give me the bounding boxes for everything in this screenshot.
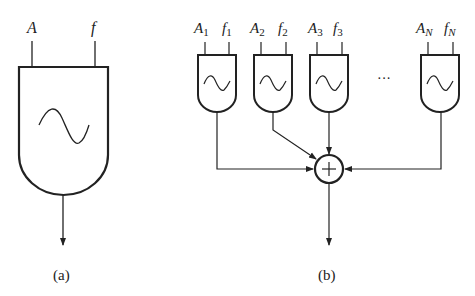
oscillator-2: A2 f2 bbox=[249, 20, 292, 112]
svg-text:f2: f2 bbox=[278, 20, 288, 38]
sine-wave-icon bbox=[260, 76, 286, 91]
svg-text:A1: A1 bbox=[193, 20, 209, 38]
panel-a: A f (a) bbox=[19, 19, 108, 284]
sine-wave-icon bbox=[427, 76, 453, 91]
additive-synthesis-diagram: A f (a) A1 f1 A2 f2 A3 f3 bbox=[0, 0, 475, 296]
svg-text:fN: fN bbox=[444, 20, 456, 38]
svg-text:A2: A2 bbox=[249, 20, 265, 38]
caption-b: (b) bbox=[318, 267, 336, 284]
panel-b: A1 f1 A2 f2 A3 f3 ··· AN bbox=[193, 20, 459, 284]
label-frequency-f: f bbox=[91, 19, 98, 37]
label-amplitude-a: A bbox=[26, 19, 37, 36]
svg-text:A3: A3 bbox=[307, 20, 323, 38]
svg-text:f1: f1 bbox=[222, 20, 232, 38]
caption-a: (a) bbox=[53, 267, 70, 284]
sine-wave-icon bbox=[204, 76, 230, 91]
adder-node bbox=[315, 155, 343, 183]
ellipsis: ··· bbox=[377, 71, 391, 86]
sine-wave-icon bbox=[316, 76, 342, 91]
svg-text:AN: AN bbox=[415, 20, 433, 38]
oscillator-1: A1 f1 bbox=[193, 20, 236, 112]
oscillator-block bbox=[19, 67, 108, 195]
svg-text:f3: f3 bbox=[333, 20, 343, 38]
oscillator-n: AN fN bbox=[415, 20, 459, 112]
sine-wave-icon bbox=[39, 109, 89, 143]
oscillator-3: A3 f3 bbox=[307, 20, 348, 112]
